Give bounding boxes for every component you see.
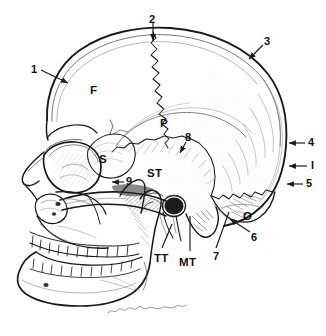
leader-line-3 <box>249 45 263 59</box>
skull-illustration <box>0 0 326 336</box>
bone-label-occipital: O <box>243 211 252 223</box>
bone-label-mastoid-temporal: MT <box>179 257 196 269</box>
bone-label-tympanic-temporal: TT <box>154 253 169 265</box>
bone-label-squamous-temporal: ST <box>147 168 162 180</box>
bone-label-sphenoid: S <box>99 154 107 166</box>
maxillary-teeth <box>30 232 139 257</box>
callout-label-4: 4 <box>308 137 314 148</box>
external-acoustic-meatus <box>163 195 186 216</box>
bone-label-parietal: P <box>160 118 168 130</box>
bone-label-frontal: F <box>90 85 97 97</box>
callout-label-I: I <box>311 160 314 171</box>
supraorbital-margin <box>47 125 97 138</box>
maxilla <box>37 202 108 248</box>
skull-lateral-figure: F P S ST O TT MT 1 2 3 4 I 5 6 7 8 9 <box>0 0 326 336</box>
artist-signature <box>108 305 186 313</box>
styloid-process <box>176 216 181 241</box>
callout-label-6: 6 <box>251 232 257 243</box>
callout-label-5: 5 <box>306 178 312 189</box>
callout-label-2: 2 <box>149 14 155 25</box>
orbit <box>44 139 101 192</box>
callout-label-8: 8 <box>185 132 191 143</box>
coronal-suture <box>151 32 169 148</box>
callout-label-3: 3 <box>264 36 270 47</box>
callout-label-7: 7 <box>213 251 219 262</box>
callout-label-9: 9 <box>126 176 132 187</box>
callout-label-1: 1 <box>31 64 37 75</box>
